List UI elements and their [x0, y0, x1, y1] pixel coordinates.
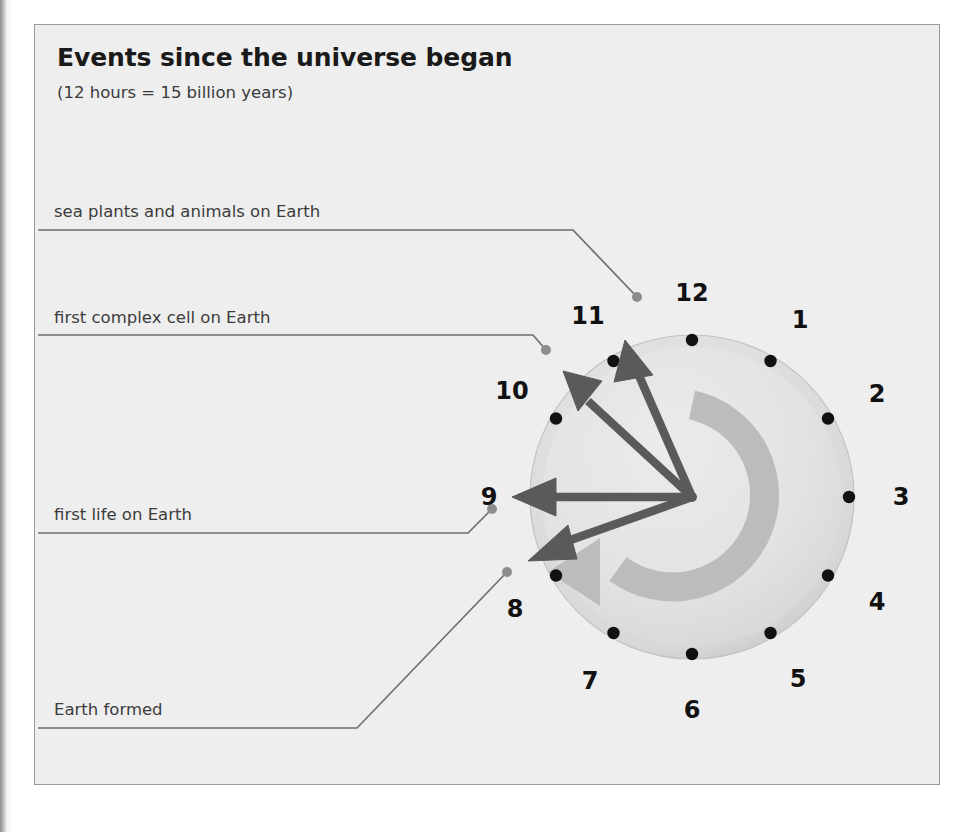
clock-numeral-4: 4 — [854, 588, 900, 616]
clock-numeral-2: 2 — [854, 380, 900, 408]
event-label-sea-plants-and-animals: sea plants and animals on Earth — [54, 202, 320, 221]
clock-numeral-7: 7 — [567, 667, 613, 695]
clock-numeral-12: 12 — [669, 279, 715, 307]
clock-numeral-5: 5 — [775, 665, 821, 693]
figure-subtitle: (12 hours = 15 billion years) — [57, 83, 293, 102]
clock-numeral-3: 3 — [878, 483, 924, 511]
clock-numeral-1: 1 — [777, 306, 823, 334]
event-label-earth-formed: Earth formed — [54, 700, 163, 719]
clock-numeral-8: 8 — [492, 595, 538, 623]
page-edge-gradient — [7, 0, 13, 832]
event-label-first-life: first life on Earth — [54, 505, 192, 524]
event-label-first-complex-cell: first complex cell on Earth — [54, 308, 270, 327]
clock-numeral-11: 11 — [565, 302, 611, 330]
figure-title: Events since the universe began — [57, 43, 512, 72]
page-edge-shadow — [0, 0, 7, 832]
clock-numeral-9: 9 — [466, 483, 512, 511]
clock-numeral-10: 10 — [489, 377, 535, 405]
clock-numeral-6: 6 — [669, 696, 715, 724]
